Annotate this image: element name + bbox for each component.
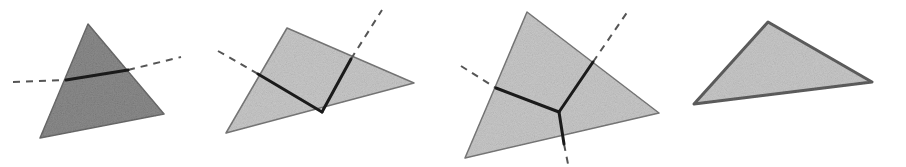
figure-canvas <box>0 0 906 167</box>
figure-container <box>0 0 906 167</box>
